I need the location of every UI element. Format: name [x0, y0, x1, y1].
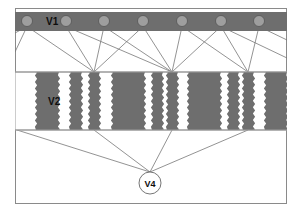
v1-node[interactable] — [138, 16, 149, 27]
v2-stripe — [264, 72, 288, 130]
v1-node[interactable] — [216, 16, 227, 27]
v2-stripe — [187, 72, 222, 130]
v1-node[interactable] — [99, 16, 110, 27]
v2-label: V2 — [48, 96, 61, 107]
v4-label: V4 — [144, 179, 155, 189]
v2-stripe — [111, 72, 146, 130]
figure-container: V1 V2 V4 — [0, 0, 300, 212]
v2-stripe-group — [35, 72, 288, 130]
hierarchy-diagram: V1 V2 V4 — [0, 0, 300, 212]
v1-node[interactable] — [61, 16, 72, 27]
v1-node[interactable] — [22, 16, 33, 27]
v1-node[interactable] — [177, 16, 188, 27]
v2-stripe — [69, 72, 83, 130]
v1-label: V1 — [46, 16, 59, 27]
v1-node[interactable] — [254, 16, 265, 27]
